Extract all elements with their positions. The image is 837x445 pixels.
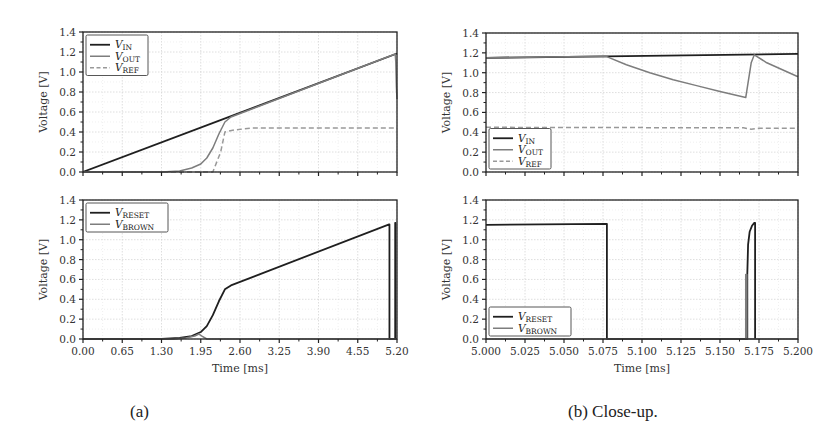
x-tick-label: 3.25	[268, 345, 291, 357]
y-tick-label: 1.0	[462, 67, 479, 79]
y-tick-label: 0.4	[462, 293, 479, 305]
y-tick-label: 1.2	[59, 214, 76, 226]
y-tick-label: 1.0	[59, 234, 76, 246]
legend: VINVOUTVREF	[489, 129, 551, 170]
x-tick-label: 0.00	[71, 345, 94, 357]
y-tick-label: 0.2	[462, 146, 479, 158]
y-tick-label: 1.4	[462, 194, 479, 206]
y-tick-label: 0.6	[462, 106, 479, 118]
plot-b-bottom: 5.0005.0255.0505.0755.1005.1255.1505.175…	[440, 194, 813, 375]
x-tick-label: 5.075	[588, 345, 618, 357]
x-tick-label: 1.95	[189, 345, 212, 357]
x-tick-label: 5.050	[549, 345, 579, 357]
legend: VRESETVBROWN	[489, 307, 571, 336]
x-tick-label: 5.000	[471, 345, 501, 357]
x-tick-label: 0.65	[111, 345, 134, 357]
y-tick-label: 0.4	[59, 293, 76, 305]
caption-a: (a)	[130, 402, 149, 422]
x-tick-label: 5.200	[783, 345, 813, 357]
y-tick-label: 1.2	[462, 214, 479, 226]
y-tick-label: 0.0	[462, 166, 479, 178]
y-tick-label: 1.2	[59, 46, 76, 58]
y-tick-label: 0.0	[462, 333, 479, 345]
x-tick-label: 4.55	[346, 345, 369, 357]
x-tick-label: 5.150	[705, 345, 735, 357]
y-tick-label: 1.4	[462, 27, 479, 39]
x-tick-label: 3.90	[307, 345, 330, 357]
x-tick-label: 2.60	[228, 345, 251, 357]
plot-a-bottom: 0.000.651.301.952.603.253.904.555.200.00…	[37, 194, 409, 375]
plot-b-top: 0.00.20.40.60.81.01.21.4Voltage [V]VINVO…	[440, 27, 798, 178]
y-axis-label: Voltage [V]	[440, 72, 453, 135]
y-tick-label: 0.6	[59, 106, 76, 118]
y-tick-label: 0.2	[59, 146, 76, 158]
y-tick-label: 0.8	[462, 254, 479, 266]
y-tick-label: 0.2	[462, 313, 479, 325]
x-tick-label: 5.100	[627, 345, 657, 357]
y-axis-label: Voltage [V]	[440, 239, 453, 302]
x-tick-label: 5.175	[744, 345, 774, 357]
y-axis-label: Voltage [V]	[37, 239, 50, 302]
y-tick-label: 1.0	[59, 66, 76, 78]
x-axis-label: Time [ms]	[614, 362, 670, 375]
y-tick-label: 1.0	[462, 234, 479, 246]
caption-b: (b) Close-up.	[568, 402, 658, 422]
x-axis-label: Time [ms]	[212, 362, 268, 375]
y-tick-label: 1.2	[462, 47, 479, 59]
y-tick-label: 0.4	[462, 126, 479, 138]
legend: VRESETVBROWN	[86, 203, 168, 232]
y-tick-label: 1.4	[59, 26, 76, 38]
y-tick-label: 0.6	[462, 273, 479, 285]
x-tick-label: 5.20	[385, 345, 408, 357]
y-axis-label: Voltage [V]	[37, 71, 50, 134]
y-tick-label: 0.2	[59, 313, 76, 325]
series-reset	[83, 223, 395, 339]
series-brown	[83, 334, 397, 339]
y-tick-label: 0.8	[59, 86, 76, 98]
y-tick-label: 1.4	[59, 194, 76, 206]
y-tick-label: 0.8	[462, 87, 479, 99]
figure: 0.00.20.40.60.81.01.21.4Voltage [V]VINVO…	[0, 0, 837, 445]
y-tick-label: 0.4	[59, 126, 76, 138]
legend: VINVOUTVREF	[86, 35, 148, 76]
y-tick-label: 0.0	[59, 166, 76, 178]
x-tick-label: 5.025	[510, 345, 540, 357]
x-tick-label: 1.30	[150, 345, 173, 357]
x-tick-label: 5.125	[666, 345, 696, 357]
y-tick-label: 0.8	[59, 254, 76, 266]
plot-a-top: 0.00.20.40.60.81.01.21.4Voltage [V]VINVO…	[37, 26, 397, 178]
y-tick-label: 0.6	[59, 273, 76, 285]
y-tick-label: 0.0	[59, 333, 76, 345]
